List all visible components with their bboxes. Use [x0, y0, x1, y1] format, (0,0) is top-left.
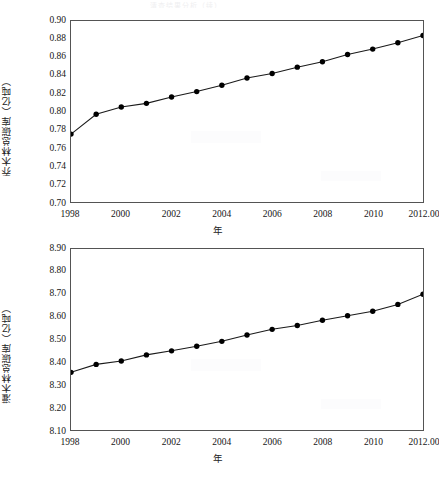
x-axis-tick-label: 2012.00: [409, 435, 439, 449]
series-line: [71, 35, 423, 134]
x-axis-tick-label: 2006: [263, 435, 282, 449]
x-axis-tick-label: 2000: [111, 435, 130, 449]
data-point-marker: [244, 332, 249, 337]
data-point-marker: [194, 344, 199, 349]
x-axis-tick-label: 2008: [313, 435, 332, 449]
y-axis-tick-label: 0.86: [49, 51, 66, 62]
data-point-marker: [169, 348, 174, 353]
y-axis-tick-label: 0.82: [49, 88, 66, 99]
data-point-marker: [295, 323, 300, 328]
data-point-marker: [420, 292, 423, 297]
line-series-svg: [71, 21, 423, 202]
y-axis-tick-label: 8.60: [49, 311, 66, 322]
data-point-marker: [219, 339, 224, 344]
data-point-marker: [320, 318, 325, 323]
x-axis-tick-label: 2002: [162, 435, 181, 449]
x-axis-tick-label: 2010: [364, 207, 383, 221]
x-axis-tick-label: 2010: [364, 435, 383, 449]
x-axis-tick-label: 2002: [162, 207, 181, 221]
y-axis-label: 灌木林总碳库（亿吨）: [2, 268, 16, 438]
y-axis-tick-label: 0.74: [49, 161, 66, 172]
y-axis-tick-label: 8.40: [49, 357, 66, 368]
y-axis-tick-label: 8.90: [49, 243, 66, 254]
data-point-marker: [269, 327, 274, 332]
data-point-marker: [244, 75, 249, 80]
y-axis-tick-label: 8.70: [49, 288, 66, 299]
y-axis-tick-label: 8.80: [49, 265, 66, 276]
data-point-marker: [295, 64, 300, 69]
data-point-marker: [345, 52, 350, 57]
y-axis-tick-label: 0.90: [49, 15, 66, 26]
data-point-marker: [420, 33, 423, 38]
data-point-marker: [169, 94, 174, 99]
data-point-marker: [395, 40, 400, 45]
data-point-marker: [395, 302, 400, 307]
plot-area: [70, 20, 424, 203]
data-point-marker: [320, 59, 325, 64]
data-point-marker: [269, 71, 274, 76]
y-axis-label: 乔木林总碳库（亿吨）: [2, 40, 16, 212]
faint-header-text: 清查结果分析（续）: [150, 0, 360, 8]
data-point-marker: [93, 362, 98, 367]
data-point-marker: [119, 358, 124, 363]
tree-forest-carbon-stock-chart: 乔木林总碳库（亿吨） 0.900.880.860.840.820.800.780…: [0, 8, 435, 240]
data-point-marker: [345, 313, 350, 318]
shrub-forest-carbon-stock-chart: 灌木林总碳库（亿吨） 8.908.808.708.608.508.408.308…: [0, 240, 435, 480]
data-point-marker: [144, 101, 149, 106]
data-point-marker: [194, 89, 199, 94]
x-axis-tick-label: 2012.00: [409, 207, 439, 221]
data-point-marker: [119, 104, 124, 109]
x-axis-tick-label: 1998: [61, 207, 80, 221]
x-axis-tick-label: 2004: [212, 207, 231, 221]
y-axis-tick-label: 8.20: [49, 403, 66, 414]
data-point-marker: [370, 46, 375, 51]
x-axis-tick-labels: 19982000200220042006200820102012.00: [0, 207, 435, 221]
x-axis-tick-label: 2004: [212, 435, 231, 449]
data-point-marker: [71, 370, 74, 375]
y-axis-tick-label: 8.50: [49, 334, 66, 345]
x-axis-tick-labels: 19982000200220042006200820102012.00: [0, 435, 435, 449]
y-axis-tick-label: 0.76: [49, 143, 66, 154]
x-axis-tick-label: 2006: [263, 207, 282, 221]
x-axis-label: 年: [0, 223, 435, 237]
y-axis-tick-label: 8.30: [49, 380, 66, 391]
data-point-marker: [370, 309, 375, 314]
x-axis-label: 年: [0, 451, 435, 465]
y-axis-tick-label: 0.80: [49, 106, 66, 117]
y-axis-tick-label: 0.88: [49, 33, 66, 44]
x-axis-tick-label: 1998: [61, 435, 80, 449]
line-series-svg: [71, 249, 423, 430]
data-point-marker: [144, 352, 149, 357]
y-axis-tick-label: 0.78: [49, 124, 66, 135]
y-axis-tick-label: 0.84: [49, 69, 66, 80]
x-axis-tick-label: 2008: [313, 207, 332, 221]
plot-area: [70, 248, 424, 431]
x-axis-tick-label: 2000: [111, 207, 130, 221]
data-point-marker: [93, 112, 98, 117]
data-point-marker: [219, 83, 224, 88]
y-axis-tick-label: 0.72: [49, 179, 66, 190]
